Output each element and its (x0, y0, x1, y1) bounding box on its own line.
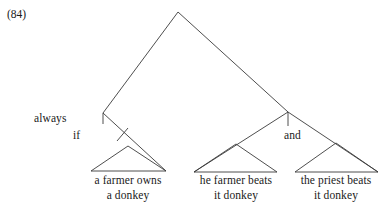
node-label-and: and (284, 129, 301, 142)
leaf-text-priest-beats: the priest beats it donkey (301, 173, 372, 202)
leaf-triangle-priest-beats (295, 143, 378, 172)
leaf-triangle-farmer-owns (91, 146, 166, 171)
leaf-text-line-2: a donkey (94, 188, 161, 203)
branch-root-right (178, 12, 288, 112)
leaf-text-line-1: the priest beats (301, 173, 372, 188)
leaf-text-farmer-owns: a farmer owns a donkey (94, 173, 161, 202)
node-label-always: always (34, 112, 67, 125)
figure-syntax-tree: (84) always if and a farmer owns a donke… (0, 0, 385, 217)
leaf-triangle-farmer-beats (194, 144, 277, 172)
branch-root-left (103, 12, 178, 113)
leaf-text-line-2: it donkey (200, 188, 272, 203)
branch-always-to-if (103, 113, 166, 171)
leaf-text-line-1: he farmer beats (200, 173, 272, 188)
leaf-text-line-2: it donkey (301, 188, 372, 203)
leaf-text-farmer-beats: he farmer beats it donkey (200, 173, 272, 202)
leaf-text-line-1: a farmer owns (94, 173, 161, 188)
node-label-if: if (73, 129, 80, 142)
